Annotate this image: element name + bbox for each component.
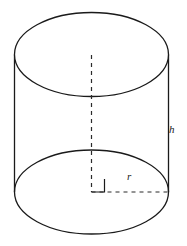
cylinder-drawing xyxy=(0,0,187,246)
height-label: h xyxy=(169,124,175,135)
cylinder-figure: h r xyxy=(0,0,187,246)
top-base-ellipse xyxy=(15,13,169,97)
radius-label: r xyxy=(127,171,131,182)
right-angle-marker-icon xyxy=(92,179,105,192)
